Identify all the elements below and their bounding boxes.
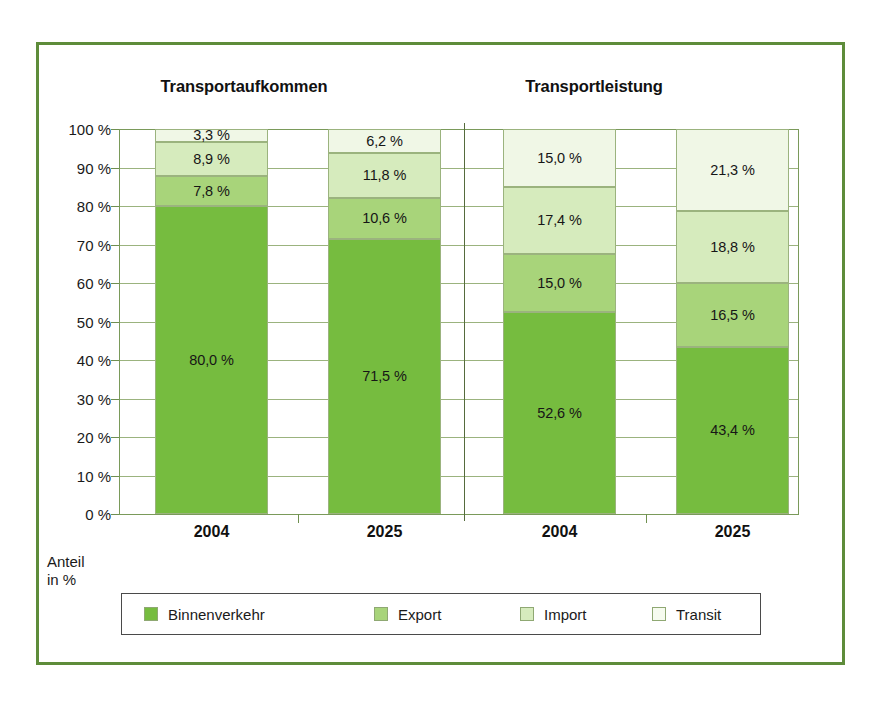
y-tick-label: 20 %: [49, 429, 111, 446]
bar-stack: 71,5 %10,6 %11,8 %6,2 %: [328, 129, 441, 514]
legend-swatch-icon: [520, 607, 534, 621]
bar-segment-binnenverkehr: 52,6 %: [503, 312, 616, 515]
y-tick-label: 10 %: [49, 467, 111, 484]
y-tick-label: 70 %: [49, 236, 111, 253]
bar-segment-import: 8,9 %: [155, 142, 268, 176]
bar-segment-export: 16,5 %: [676, 283, 789, 347]
bar-segment-label: 10,6 %: [362, 210, 407, 226]
bar-segment-binnenverkehr: 71,5 %: [328, 239, 441, 514]
bar-stack: 80,0 %7,8 %8,9 %3,3 %: [155, 129, 268, 514]
x-axis-label: 2004: [480, 523, 640, 541]
bar-segment-transit: 6,2 %: [328, 129, 441, 153]
axis-caption: Anteil in %: [47, 553, 85, 589]
y-tick-label: 90 %: [49, 159, 111, 176]
chart-frame: Transportaufkommen Transportleistung 100…: [36, 42, 845, 665]
legend-swatch-icon: [144, 607, 158, 621]
legend-item-transit[interactable]: Transit: [652, 606, 721, 623]
bar-segment-label: 8,9 %: [193, 151, 230, 167]
y-tick-label: 50 %: [49, 313, 111, 330]
bar-segment-transit: 3,3 %: [155, 129, 268, 142]
legend-swatch-icon: [374, 607, 388, 621]
y-axis-labels: 100 %90 %80 %70 %60 %50 %40 %30 %20 %10 …: [47, 45, 111, 701]
axis-caption-line1: Anteil: [47, 553, 85, 571]
x-axis-label: 2025: [653, 523, 813, 541]
bar-segment-import: 17,4 %: [503, 187, 616, 254]
bar-segment-label: 16,5 %: [710, 307, 755, 323]
bar-segment-label: 21,3 %: [710, 162, 755, 178]
bar-segment-binnenverkehr: 43,4 %: [676, 347, 789, 514]
legend-item-export[interactable]: Export: [374, 606, 441, 623]
y-tick-label: 80 %: [49, 198, 111, 215]
legend-label: Binnenverkehr: [168, 606, 265, 623]
x-axis-label: 2025: [305, 523, 465, 541]
legend-item-binnenverkehr[interactable]: Binnenverkehr: [144, 606, 265, 623]
bar-segment-export: 7,8 %: [155, 176, 268, 206]
bar-segment-label: 43,4 %: [710, 422, 755, 438]
bar-segment-import: 18,8 %: [676, 211, 789, 283]
bar-segment-transit: 21,3 %: [676, 129, 789, 211]
legend-item-import[interactable]: Import: [520, 606, 587, 623]
bar-segment-label: 6,2 %: [366, 133, 403, 149]
bar-segment-export: 15,0 %: [503, 254, 616, 312]
bar-segment-label: 71,5 %: [362, 368, 407, 384]
x-axis-label: 2004: [132, 523, 292, 541]
legend-label: Export: [398, 606, 441, 623]
chart-legend: BinnenverkehrExportImportTransit: [121, 593, 761, 635]
bar-segment-import: 11,8 %: [328, 153, 441, 198]
y-tick-label: 60 %: [49, 275, 111, 292]
legend-label: Transit: [676, 606, 721, 623]
y-tick-label: 100 %: [49, 121, 111, 138]
panel-divider-line: [464, 123, 465, 521]
x-tick-mark: [646, 514, 647, 523]
bar-stack: 43,4 %16,5 %18,8 %21,3 %: [676, 129, 789, 514]
panel-title-transportaufkommen: Transportaufkommen: [99, 77, 389, 96]
legend-swatch-icon: [652, 607, 666, 621]
legend-label: Import: [544, 606, 587, 623]
bar-segment-transit: 15,0 %: [503, 129, 616, 187]
bar-segment-export: 10,6 %: [328, 198, 441, 239]
bar-segment-label: 15,0 %: [537, 275, 582, 291]
bar-segment-label: 11,8 %: [363, 167, 406, 183]
axis-caption-line2: in %: [47, 571, 85, 589]
y-tick-label: 40 %: [49, 352, 111, 369]
bar-segment-label: 80,0 %: [189, 352, 234, 368]
bar-segment-label: 52,6 %: [537, 405, 582, 421]
bar-segment-label: 7,8 %: [193, 183, 230, 199]
y-tick-label: 0 %: [49, 506, 111, 523]
bar-segment-label: 15,0 %: [537, 150, 582, 166]
y-tick-label: 30 %: [49, 390, 111, 407]
bar-segment-label: 17,4 %: [537, 212, 582, 228]
x-tick-mark: [298, 514, 299, 523]
bar-segment-binnenverkehr: 80,0 %: [155, 206, 268, 514]
bar-stack: 52,6 %15,0 %17,4 %15,0 %: [503, 129, 616, 514]
panel-title-transportleistung: Transportleistung: [449, 77, 739, 96]
bar-segment-label: 3,3 %: [193, 127, 230, 143]
bar-segment-label: 18,8 %: [710, 239, 755, 255]
